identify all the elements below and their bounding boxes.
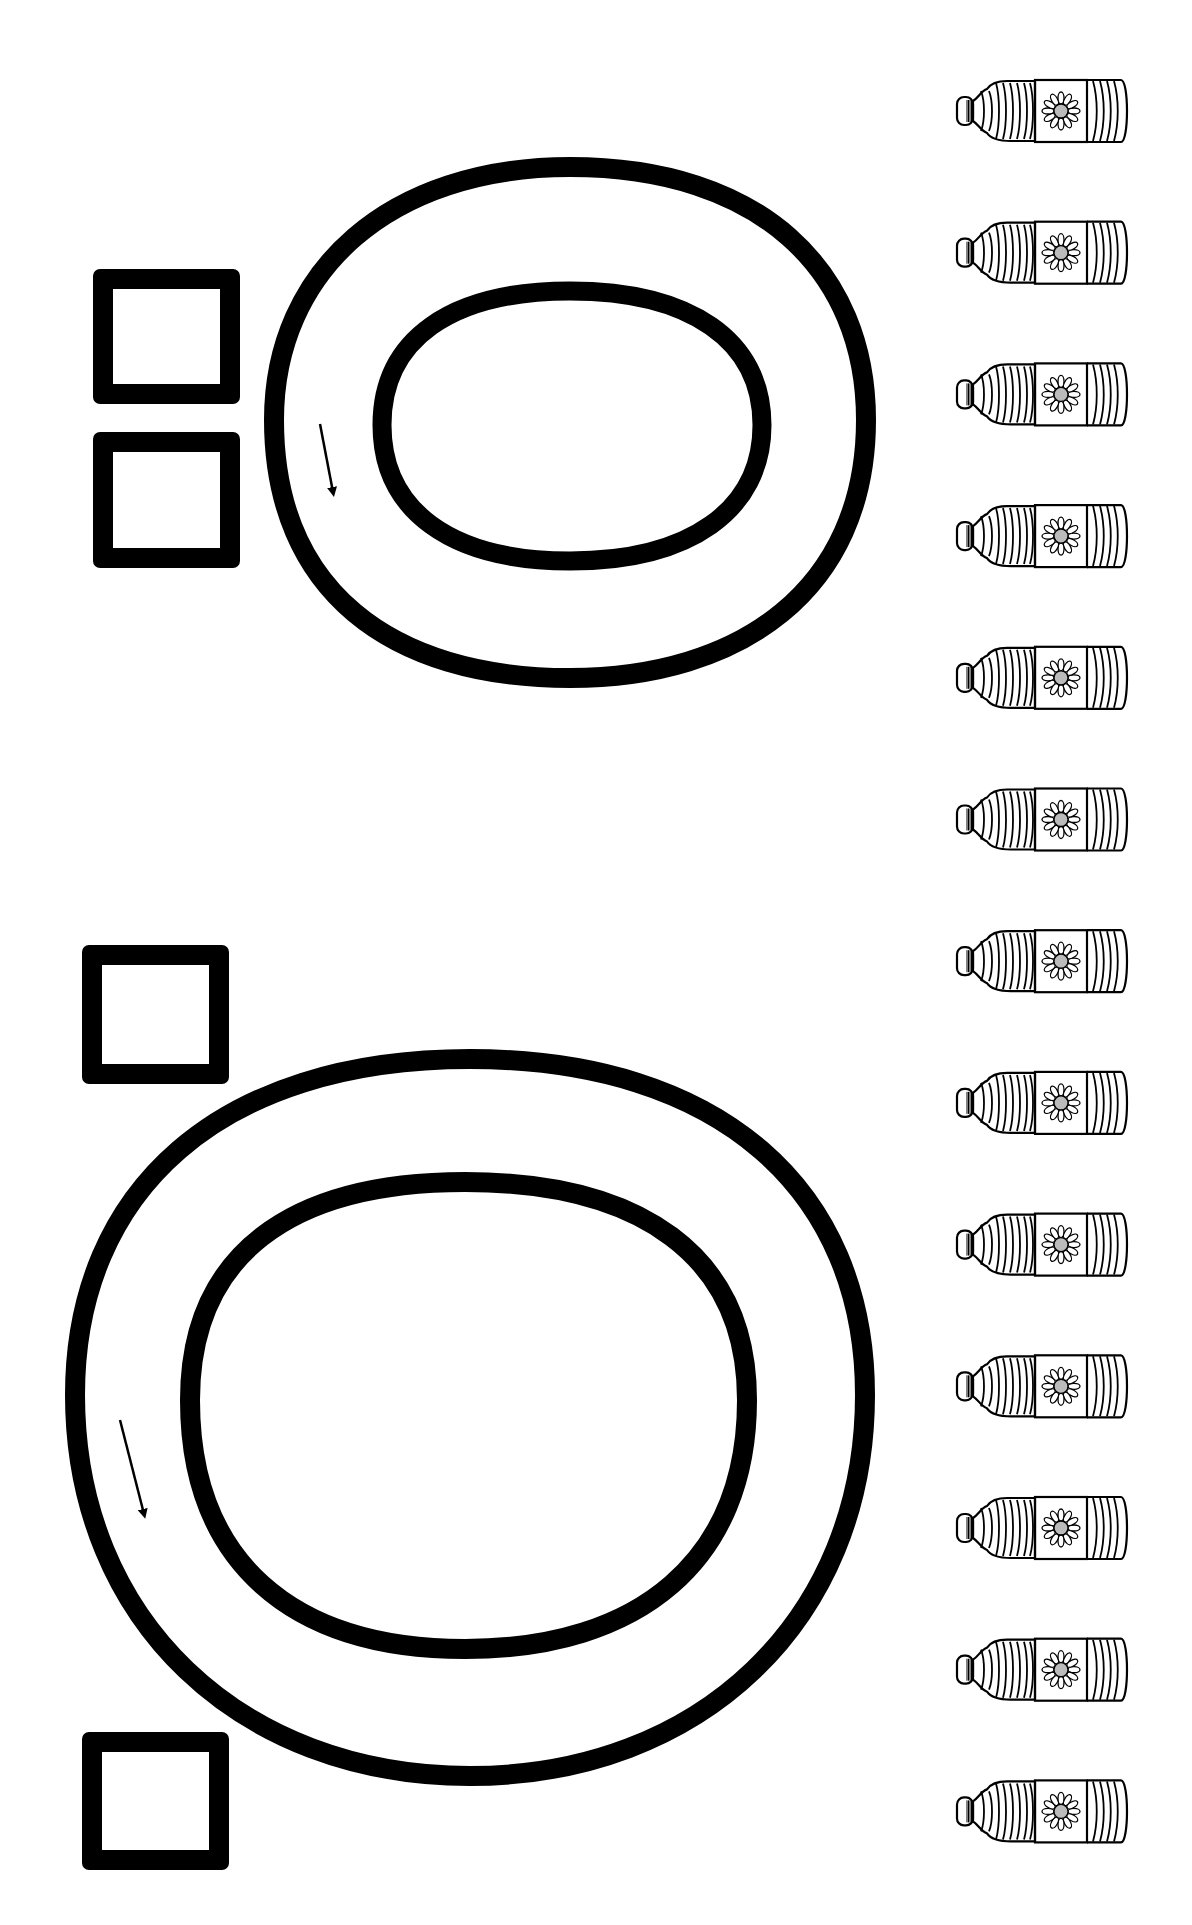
oil-bottle-icon	[957, 930, 1127, 992]
oil-bottle-icon	[957, 222, 1127, 284]
worksheet-page	[0, 0, 1192, 1925]
oil-bottle-icon	[957, 505, 1127, 567]
oil-bottle-icon	[957, 789, 1127, 851]
trace-direction-arrow-icon	[320, 424, 333, 492]
oil-bottle-icon	[957, 80, 1127, 142]
sunflower-center-icon	[1054, 1804, 1068, 1818]
answer-box[interactable]	[93, 269, 240, 404]
letter-o-large	[75, 1059, 865, 1776]
sunflower-center-icon	[1054, 954, 1068, 968]
sunflower-center-icon	[1054, 1238, 1068, 1252]
sunflower-center-icon	[1054, 1379, 1068, 1393]
sunflower-center-icon	[1054, 813, 1068, 827]
oil-bottle-icon	[957, 1497, 1127, 1559]
answer-box[interactable]	[82, 945, 229, 1084]
sunflower-center-icon	[1054, 387, 1068, 401]
letter-o-large-inner-outline	[190, 1182, 747, 1649]
oil-bottle-icon	[957, 1355, 1127, 1417]
sunflower-center-icon	[1054, 104, 1068, 118]
sunflower-center-icon	[1054, 1663, 1068, 1677]
trace-direction-arrow-icon	[120, 1420, 144, 1514]
letter-o-small	[274, 167, 866, 678]
sunflower-center-icon	[1054, 1521, 1068, 1535]
answer-box[interactable]	[93, 432, 240, 568]
sunflower-center-icon	[1054, 246, 1068, 260]
oil-bottle-icon	[957, 363, 1127, 425]
sunflower-center-icon	[1054, 529, 1068, 543]
counting-bottles-column	[957, 80, 1127, 1842]
sunflower-center-icon	[1054, 1096, 1068, 1110]
oil-bottle-icon	[957, 1214, 1127, 1276]
oil-bottle-icon	[957, 1780, 1127, 1842]
oil-bottle-icon	[957, 1072, 1127, 1134]
sunflower-center-icon	[1054, 671, 1068, 685]
oil-bottle-icon	[957, 1639, 1127, 1701]
answer-box[interactable]	[82, 1732, 229, 1870]
letter-o-small-inner-outline	[382, 291, 762, 561]
oil-bottle-icon	[957, 647, 1127, 709]
letter-o-small-outer-outline	[274, 167, 866, 678]
